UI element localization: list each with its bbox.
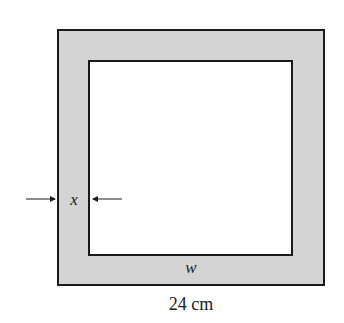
- inner-square: [89, 61, 292, 255]
- label-outer-width: 24 cm: [169, 294, 214, 314]
- label-x: x: [69, 190, 78, 209]
- frame-diagram: x w 24 cm: [0, 0, 344, 323]
- label-w: w: [185, 258, 197, 277]
